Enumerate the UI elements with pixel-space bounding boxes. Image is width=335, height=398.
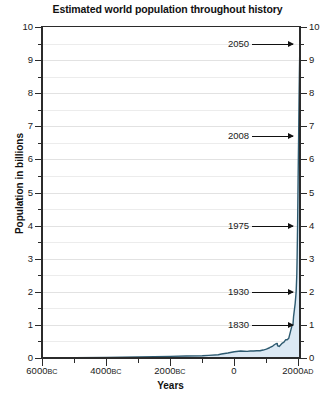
y-tick-left (35, 93, 42, 94)
annotation-label: 1975 (228, 221, 249, 231)
axis-bottom-line (41, 357, 301, 359)
x-tick-label: 4000BC (90, 366, 121, 376)
y-tick-minor-left (38, 275, 42, 276)
annotation-1975: 1975 (228, 220, 293, 232)
annotation-label: 1930 (228, 287, 249, 297)
annotation-1930: 1930 (228, 286, 293, 298)
annotation-arrow-icon (252, 292, 293, 293)
population-chart: Estimated world population throughout hi… (0, 0, 335, 398)
axis-top-line (41, 26, 301, 27)
x-axis-title: Years (0, 380, 335, 391)
y-tick-minor-right (300, 308, 304, 309)
x-tick-label: 6000BC (26, 366, 57, 376)
y-tick-minor-left (38, 176, 42, 177)
annotation-arrow-icon (252, 44, 293, 45)
annotation-label: 2050 (228, 39, 249, 49)
x-tick-minor (138, 359, 139, 363)
y-tick-label-right: 5 (309, 188, 333, 198)
y-tick-minor-left (38, 44, 42, 45)
y-tick-label-right: 9 (309, 55, 333, 65)
y-tick-left (35, 60, 42, 61)
y-tick-label-right: 6 (309, 154, 333, 164)
y-tick-right (300, 27, 307, 28)
x-tick-label: 2000BC (154, 366, 185, 376)
annotation-1830: 1830 (228, 319, 293, 331)
y-tick-left (35, 292, 42, 293)
annotation-label: 2008 (228, 131, 249, 141)
y-tick-label-right: 2 (309, 287, 333, 297)
y-tick-label-left: 2 (9, 287, 33, 297)
y-tick-minor-right (300, 77, 304, 78)
x-tick-label: 2000AD (282, 366, 313, 376)
y-tick-minor-right (300, 110, 304, 111)
y-tick-minor-left (38, 143, 42, 144)
area-fill (42, 44, 300, 358)
y-tick-right (300, 226, 307, 227)
y-tick-left (35, 259, 42, 260)
x-tick-label: 0 (231, 366, 236, 376)
y-tick-right (300, 126, 307, 127)
y-tick-minor-right (300, 275, 304, 276)
area-line (42, 44, 300, 358)
y-tick-minor-left (38, 77, 42, 78)
y-tick-minor-right (300, 143, 304, 144)
y-tick-minor-left (38, 242, 42, 243)
y-tick-minor-left (38, 341, 42, 342)
y-tick-left (35, 126, 42, 127)
y-tick-label-left: 1 (9, 320, 33, 330)
y-tick-minor-right (300, 44, 304, 45)
y-axis-title: Population in billions (14, 114, 25, 254)
y-tick-left (35, 325, 42, 326)
annotation-label: 1830 (228, 320, 249, 330)
y-tick-right (300, 193, 307, 194)
y-tick-right (300, 325, 307, 326)
y-tick-label-left: 0 (9, 353, 33, 363)
y-tick-minor-left (38, 209, 42, 210)
population-area-curve (42, 27, 300, 358)
y-tick-label-right: 10 (309, 22, 333, 32)
y-tick-left (35, 358, 42, 359)
y-tick-label-left: 10 (9, 22, 33, 32)
annotation-arrow-icon (252, 136, 293, 137)
x-tick-minor (202, 359, 203, 363)
annotation-2050: 2050 (228, 38, 293, 50)
y-tick-minor-right (300, 242, 304, 243)
y-tick-right (300, 93, 307, 94)
chart-title: Estimated world population throughout hi… (0, 3, 335, 15)
y-tick-right (300, 159, 307, 160)
y-tick-left (35, 226, 42, 227)
y-tick-label-right: 1 (309, 320, 333, 330)
y-tick-left (35, 27, 42, 28)
annotation-arrow-icon (252, 226, 293, 227)
x-tick-minor (74, 359, 75, 363)
y-tick-minor-left (38, 110, 42, 111)
y-tick-label-left: 3 (9, 254, 33, 264)
y-tick-label-right: 3 (309, 254, 333, 264)
annotation-arrow-icon (252, 325, 293, 326)
annotation-2008: 2008 (228, 130, 293, 142)
y-tick-label-right: 0 (309, 353, 333, 363)
y-tick-right (300, 259, 307, 260)
y-tick-left (35, 159, 42, 160)
y-tick-label-right: 8 (309, 88, 333, 98)
y-tick-label-right: 7 (309, 121, 333, 131)
y-tick-right (300, 60, 307, 61)
y-tick-label-left: 8 (9, 88, 33, 98)
y-tick-label-right: 4 (309, 221, 333, 231)
y-tick-minor-right (300, 209, 304, 210)
y-tick-right (300, 292, 307, 293)
y-tick-minor-left (38, 308, 42, 309)
y-tick-right (300, 358, 307, 359)
y-tick-minor-right (300, 176, 304, 177)
y-tick-label-left: 9 (9, 55, 33, 65)
y-tick-minor-right (300, 341, 304, 342)
x-tick-minor (266, 359, 267, 363)
y-tick-left (35, 193, 42, 194)
